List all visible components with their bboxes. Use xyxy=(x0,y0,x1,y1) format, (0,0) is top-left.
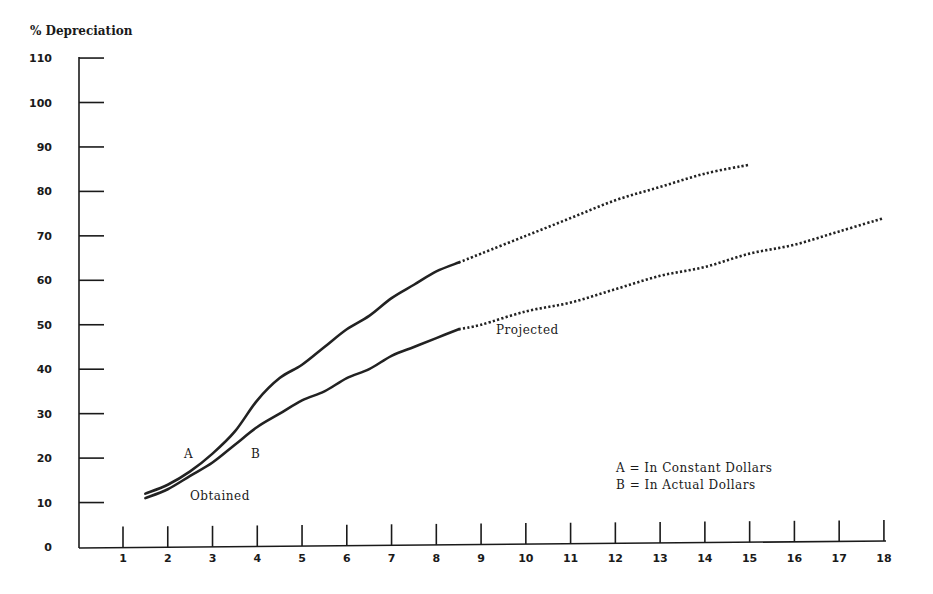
x-tick-label: 8 xyxy=(432,552,440,565)
x-tick-label: 14 xyxy=(697,552,713,565)
x-tick-label: 10 xyxy=(518,552,534,565)
y-tick-label: 80 xyxy=(37,185,53,198)
y-tick-label: 70 xyxy=(37,230,53,243)
projected-label: Projected xyxy=(496,323,559,337)
x-tick-label: 3 xyxy=(209,552,217,565)
obtained-label: Obtained xyxy=(190,489,250,503)
x-axis: 123456789101112131415161718 xyxy=(79,520,892,565)
x-tick-label: 15 xyxy=(742,552,757,565)
y-tick-label: 90 xyxy=(37,141,53,154)
y-tick-label: 40 xyxy=(37,363,53,376)
x-tick-label: 12 xyxy=(608,552,623,565)
x-tick-label: 9 xyxy=(477,552,485,565)
curve-a-projected xyxy=(459,165,750,263)
x-tick-label: 1 xyxy=(119,552,127,565)
y-tick-label: 110 xyxy=(29,52,52,65)
x-tick-label: 2 xyxy=(164,552,172,565)
legend: A = In Constant Dollars B = In Actual Do… xyxy=(615,461,772,492)
y-tick-label: 60 xyxy=(37,274,53,287)
x-tick-label: 13 xyxy=(652,552,667,565)
curve-a-label: A xyxy=(183,447,193,461)
x-tick-label: 6 xyxy=(343,552,351,565)
x-tick-label: 7 xyxy=(388,552,396,565)
y-tick-label: 0 xyxy=(44,541,52,554)
y-axis-title: % Depreciation xyxy=(30,24,133,38)
curve-b-projected xyxy=(459,218,884,329)
x-tick-label: 16 xyxy=(787,552,803,565)
y-tick-label: 10 xyxy=(37,497,53,510)
y-tick-label: 50 xyxy=(37,319,53,332)
x-tick-label: 4 xyxy=(253,552,261,565)
legend-entry-b: B = In Actual Dollars xyxy=(616,478,756,492)
y-axis: 0102030405060708090100110 xyxy=(29,52,104,554)
x-tick-label: 5 xyxy=(298,552,306,565)
y-tick-label: 100 xyxy=(29,97,52,110)
curve-b-label: B xyxy=(251,447,260,461)
curve-b-obtained xyxy=(145,329,458,498)
y-tick-label: 30 xyxy=(37,408,53,421)
legend-entry-a: A = In Constant Dollars xyxy=(615,461,772,475)
depreciation-chart: % Depreciation 0102030405060708090100110… xyxy=(0,0,933,594)
x-tick-label: 17 xyxy=(832,552,847,565)
x-tick-label: 11 xyxy=(563,552,578,565)
y-tick-label: 20 xyxy=(37,452,53,465)
x-tick-label: 18 xyxy=(876,552,891,565)
y-axis-ticks: 0102030405060708090100110 xyxy=(29,52,104,554)
